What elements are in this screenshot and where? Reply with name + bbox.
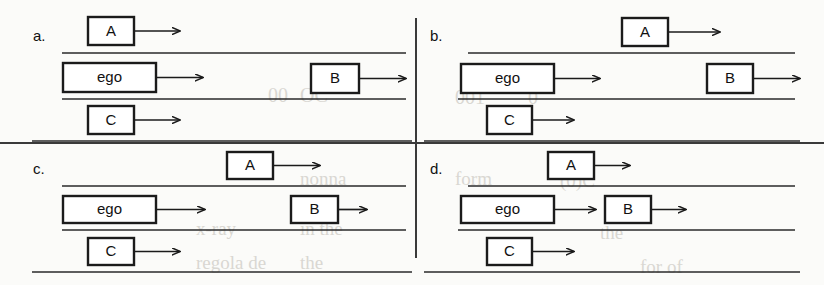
vehicle-b[interactable]: B xyxy=(605,196,686,223)
vehicle-c-label: C xyxy=(504,111,515,128)
vehicle-c[interactable]: C xyxy=(88,238,180,265)
vehicle-b-label: B xyxy=(330,69,340,86)
panel-b: b.AegoBC xyxy=(424,18,800,141)
vehicle-a-label: A xyxy=(640,23,650,40)
vehicle-ego[interactable]: ego xyxy=(63,63,203,92)
vehicle-a-label: A xyxy=(106,22,116,39)
vehicle-b-label: B xyxy=(725,69,735,86)
scenario-diagram: a.AegoBCb.AegoBCc.AegoBCd.AegoBC xyxy=(0,0,824,285)
vehicle-b[interactable]: B xyxy=(291,196,367,223)
vehicle-a[interactable]: A xyxy=(622,18,720,46)
vehicle-ego-label: ego xyxy=(495,69,520,86)
vehicle-ego[interactable]: ego xyxy=(63,196,205,223)
vehicle-ego-label: ego xyxy=(495,200,520,217)
figure-traffic-scenarios: 00OC0010formnonnax-rayin theregola dethe… xyxy=(0,0,824,285)
vehicle-b[interactable]: B xyxy=(311,64,406,93)
vehicle-c-label: C xyxy=(106,242,117,259)
vehicle-c[interactable]: C xyxy=(487,238,574,265)
vehicle-a[interactable]: A xyxy=(548,152,630,179)
vehicle-a-label: A xyxy=(566,156,576,173)
vehicle-ego-label: ego xyxy=(97,200,122,217)
vehicle-b[interactable]: B xyxy=(707,64,800,93)
panel-label-d: d. xyxy=(430,160,443,177)
vehicle-c[interactable]: C xyxy=(487,106,574,134)
panel-label-a: a. xyxy=(33,27,46,44)
panel-c: c.AegoBC xyxy=(32,152,412,272)
vehicle-a-label: A xyxy=(245,156,255,173)
vehicle-c-label: C xyxy=(106,111,117,128)
panel-d: d.AegoBC xyxy=(424,152,800,272)
vehicle-a[interactable]: A xyxy=(88,17,180,45)
panel-label-c: c. xyxy=(33,160,45,177)
panel-label-b: b. xyxy=(430,27,443,44)
vehicle-c-label: C xyxy=(504,242,515,259)
vehicle-b-label: B xyxy=(623,200,633,217)
panel-a: a.AegoBC xyxy=(32,17,412,141)
vehicle-ego-label: ego xyxy=(97,68,122,85)
vehicle-c[interactable]: C xyxy=(88,106,180,134)
vehicle-ego[interactable]: ego xyxy=(461,64,600,93)
vehicle-b-label: B xyxy=(309,200,319,217)
vehicle-ego[interactable]: ego xyxy=(461,196,596,223)
vehicle-a[interactable]: A xyxy=(227,152,320,179)
